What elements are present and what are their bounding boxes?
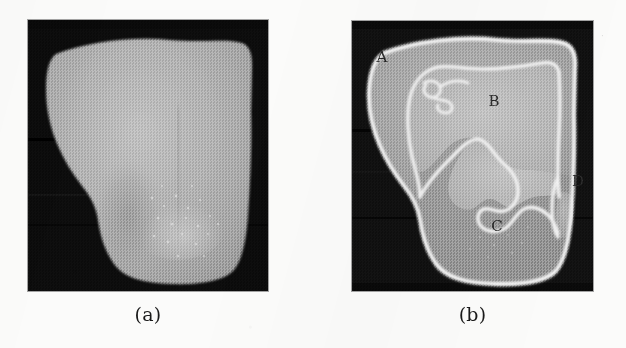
region-label-b: B — [488, 92, 499, 110]
region-label-a: A — [376, 48, 388, 66]
panel-a: (a) — [28, 20, 268, 337]
region-label-d: D — [572, 172, 584, 190]
panel-a-image — [28, 20, 268, 291]
panel-b-image: A B C D — [352, 21, 593, 291]
figure-root: (a) — [0, 0, 626, 348]
scan-speck-icon: · — [601, 31, 604, 41]
panel-a-artwork — [28, 20, 268, 291]
panel-b-caption: (b) — [352, 303, 593, 325]
region-label-c: C — [491, 217, 502, 235]
panel-b: A B C D (b) — [352, 21, 593, 337]
panel-a-caption: (a) — [28, 303, 268, 325]
panel-b-artwork: A B C D — [352, 21, 593, 291]
